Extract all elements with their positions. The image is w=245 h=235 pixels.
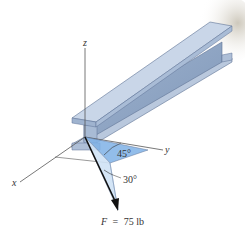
- leader-30: [113, 175, 121, 178]
- x-axis-label: x: [11, 177, 17, 188]
- top-flange-side: [96, 26, 232, 127]
- y-axis-label: y: [164, 144, 170, 155]
- beam-web: [84, 42, 222, 142]
- force-magnitude: 75 lb: [124, 216, 144, 227]
- angle-45-label: 45°: [117, 148, 131, 159]
- z-axis-label: z: [82, 37, 87, 48]
- force-symbol: F: [100, 216, 108, 227]
- force-arrow-head: [111, 198, 119, 211]
- force-equals: =: [113, 216, 119, 227]
- i-beam: [72, 22, 232, 150]
- force-label: F = 75 lb: [100, 216, 144, 227]
- angle-30-label: 30°: [123, 174, 137, 185]
- diagram-canvas: z y x 45° 30° F = 75 lb: [0, 0, 245, 235]
